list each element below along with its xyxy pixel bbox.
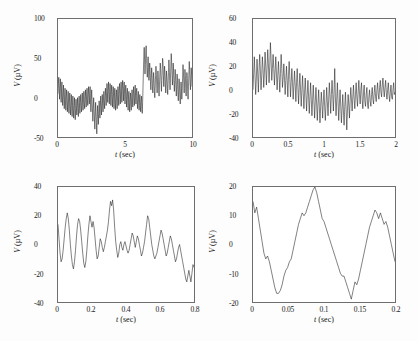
xtick-bottom-right-2: 0.1	[320, 305, 329, 314]
ytick-bottom-right-0: -20	[229, 299, 249, 308]
xaxis-label-bottom-left: t (sec)	[57, 315, 195, 324]
xtick-bottom-left-3: 0.6	[156, 305, 165, 314]
xtick-top-right-3: 1.5	[356, 140, 365, 149]
xtick-top-left-2: 10	[189, 140, 196, 149]
eeg-figure: 100 50 0 -50 0 5 10 t (sec) V (µV) 60 40…	[0, 0, 419, 341]
xtick-bottom-right-4: 0.2	[392, 305, 401, 314]
xtick-bottom-left-1: 0.2	[87, 305, 96, 314]
xtick-bottom-right-3: 0.15	[354, 305, 366, 314]
yaxis-label-unit: (µV)	[208, 230, 217, 248]
trace-bottom-right	[253, 187, 395, 302]
ytick-bottom-left-0: -40	[34, 299, 54, 308]
xtick-top-left-1: 5	[123, 140, 127, 149]
plot-area-bottom-left	[57, 186, 195, 303]
yaxis-label-symbol: V	[208, 82, 217, 87]
yaxis-label-symbol: V	[13, 82, 22, 87]
ytick-bottom-right-1: -10	[229, 270, 249, 279]
ytick-bottom-right-3: 10	[229, 211, 249, 220]
ytick-bottom-right-2: 0	[229, 240, 249, 249]
trace-top-right	[253, 19, 395, 137]
xaxis-label-unit: (sec)	[118, 315, 136, 324]
xtick-bottom-right-0: 0	[250, 305, 254, 314]
yaxis-label-unit: (µV)	[208, 64, 217, 82]
yaxis-label-unit: (µV)	[13, 64, 22, 82]
plot-area-bottom-right	[252, 186, 396, 303]
yaxis-label-symbol: V	[208, 248, 217, 253]
plot-area-top-right	[252, 18, 396, 138]
yaxis-label-unit: (µV)	[13, 230, 22, 248]
yaxis-label-top-right: V (µV)	[208, 41, 217, 111]
yaxis-label-bottom-left: V (µV)	[13, 207, 22, 277]
xtick-top-left-0: 0	[55, 140, 59, 149]
ytick-bottom-right-4: 20	[229, 182, 249, 191]
trace-bottom-left	[58, 187, 194, 302]
yaxis-label-symbol: V	[13, 248, 22, 253]
xaxis-label-top-right: t (sec)	[252, 150, 396, 159]
ytick-top-right-5: 60	[229, 14, 249, 23]
ytick-top-left-3: 100	[34, 14, 54, 23]
ytick-top-left-0: -50	[34, 134, 54, 143]
plot-area-top-left	[57, 18, 193, 138]
ytick-top-left-2: 50	[34, 54, 54, 63]
ytick-bottom-left-3: 20	[34, 211, 54, 220]
ytick-top-right-1: -20	[229, 110, 249, 119]
ytick-top-right-3: 20	[229, 62, 249, 71]
xtick-top-right-4: 2	[394, 140, 398, 149]
panel-top-left: 100 50 0 -50 0 5 10 t (sec) V (µV)	[0, 0, 210, 170]
yaxis-label-top-left: V (µV)	[13, 41, 22, 111]
xaxis-label-unit: (sec)	[117, 150, 135, 159]
panel-bottom-left: 40 20 0 -20 -40 0 0.2 0.4 0.6 0.8 t (sec…	[0, 170, 210, 341]
yaxis-label-bottom-right: V (µV)	[208, 207, 217, 277]
xtick-bottom-left-2: 0.4	[122, 305, 131, 314]
xaxis-label-top-left: t (sec)	[57, 150, 193, 159]
xtick-bottom-left-4: 0.8	[191, 305, 200, 314]
ytick-bottom-left-1: -20	[34, 270, 54, 279]
xaxis-label-bottom-right: t (sec)	[252, 315, 396, 324]
panel-top-right: 60 40 20 0 -20 -40 0 0.5 1 1.5 2 t (sec)…	[210, 0, 419, 170]
ytick-bottom-left-2: 0	[34, 240, 54, 249]
xaxis-label-unit: (sec)	[316, 150, 334, 159]
ytick-top-right-2: 0	[229, 86, 249, 95]
ytick-top-left-1: 0	[34, 94, 54, 103]
ytick-top-right-4: 40	[229, 38, 249, 47]
trace-top-left	[58, 19, 192, 137]
ytick-bottom-left-4: 40	[34, 182, 54, 191]
ytick-top-right-0: -40	[229, 134, 249, 143]
xtick-bottom-right-1: 0.05	[282, 305, 294, 314]
xtick-top-right-0: 0	[250, 140, 254, 149]
panel-bottom-right: 20 10 0 -10 -20 0 0.05 0.1 0.15 0.2 t (s…	[210, 170, 419, 341]
xtick-top-right-2: 1	[322, 140, 326, 149]
xaxis-label-unit: (sec)	[316, 315, 334, 324]
xtick-top-right-1: 0.5	[284, 140, 293, 149]
xtick-bottom-left-0: 0	[55, 305, 59, 314]
